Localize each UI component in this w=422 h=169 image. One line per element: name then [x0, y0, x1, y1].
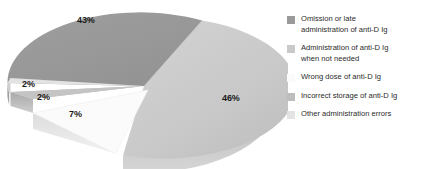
legend-label-wrong-dose: Wrong dose of anti-D Ig	[301, 72, 381, 83]
legend-item-wrong-dose[interactable]: Wrong dose of anti-D Ig	[287, 72, 422, 83]
pie-chart-figure: 43% 46% 7% 2% 2% Omission or late admini…	[0, 0, 422, 169]
legend-item-administration-when-not-needed[interactable]: Administration of anti-D Ig when not nee…	[287, 43, 422, 64]
slice-value-administration-when-not-needed: 46%	[222, 94, 240, 103]
legend-swatch-icon-administration-when-not-needed	[287, 45, 295, 53]
legend-label-administration-when-not-needed: Administration of anti-D Ig when not nee…	[301, 43, 388, 64]
legend-item-other-administration-errors[interactable]: Other administration errors	[287, 109, 422, 120]
slice-value-omission-or-late: 43%	[77, 16, 95, 25]
legend-item-omission-or-late-administration[interactable]: Omission or late administration of anti-…	[287, 14, 422, 35]
slice-value-other-errors: 2%	[22, 80, 35, 89]
legend-swatch-icon-incorrect-storage	[287, 93, 295, 101]
legend-item-incorrect-storage[interactable]: Incorrect storage of anti-D Ig	[287, 91, 422, 102]
legend-label-omission-or-late-administration: Omission or late administration of anti-…	[301, 14, 388, 35]
slice-value-wrong-dose: 7%	[69, 110, 82, 119]
legend-label-other-administration-errors: Other administration errors	[301, 109, 391, 120]
legend-swatch-icon-wrong-dose	[287, 74, 295, 82]
pie-chart-svg	[0, 0, 288, 169]
pie-chart-plot-area: 43% 46% 7% 2% 2%	[0, 0, 288, 169]
slice-value-incorrect-storage: 2%	[37, 93, 50, 102]
legend-swatch-icon-omission-or-late-administration	[287, 16, 295, 24]
legend-label-incorrect-storage: Incorrect storage of anti-D Ig	[301, 91, 397, 102]
legend-swatch-icon-other-administration-errors	[287, 111, 295, 119]
chart-legend: Omission or late administration of anti-…	[287, 14, 422, 128]
